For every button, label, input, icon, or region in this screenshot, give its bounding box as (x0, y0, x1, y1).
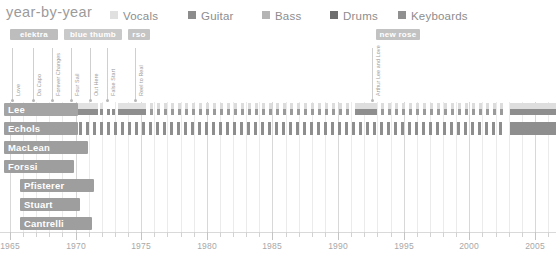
event-tick (90, 48, 91, 102)
activity-segment (478, 122, 481, 135)
axis-tick (522, 232, 523, 237)
activity-segment (220, 109, 223, 115)
activity-segment (437, 109, 440, 115)
activity-segment (325, 109, 328, 115)
activity-segment (422, 122, 425, 135)
event-label: Four Sail (74, 74, 80, 96)
activity-segment (444, 109, 447, 115)
row-label-echols[interactable]: Echols (4, 122, 78, 135)
legend-item-bass[interactable]: Bass (262, 6, 301, 20)
axis-label: 1990 (328, 241, 348, 251)
activity-segment (331, 122, 334, 135)
label-chip-elektra[interactable]: elektra (10, 29, 58, 40)
axis-tick (49, 232, 50, 237)
activity-segment (213, 109, 216, 115)
plot-area: LeeEcholsMacLeanForssiPfistererStuartCan… (0, 102, 556, 234)
legend-item-keyboards[interactable]: Keyboards (398, 6, 468, 20)
activity-segment (86, 122, 89, 135)
activity-segment (304, 109, 307, 115)
activity-segment (171, 109, 174, 115)
activity-segment (199, 109, 202, 115)
axis-tick (430, 232, 431, 237)
label-chip-rso[interactable]: rso (128, 29, 150, 40)
activity-segment (416, 109, 419, 115)
event-label: Da Capo (36, 74, 42, 96)
activity-segment (254, 122, 257, 135)
axis-tick (364, 232, 365, 237)
activity-segment (310, 122, 313, 135)
event-label: False Start (110, 69, 116, 96)
activity-segment (457, 122, 460, 135)
row-label-stuart[interactable]: Stuart (20, 198, 80, 211)
event-label: Arthur Lee and Love (375, 45, 381, 96)
legend-label: Keyboards (411, 10, 468, 22)
row-label-cantrelli[interactable]: Cantrelli (20, 217, 92, 230)
timeline-row: Echols (0, 121, 556, 140)
activity-segment (395, 109, 398, 115)
event-tick (71, 48, 72, 102)
legend-label: Vocals (123, 10, 158, 22)
activity-segment (276, 109, 279, 115)
activity-segment (296, 122, 299, 135)
axis-tick (509, 232, 510, 237)
axis-tick (299, 232, 300, 237)
axis-tick (286, 232, 287, 237)
row-label-forssi[interactable]: Forssi (4, 160, 74, 173)
activity-segment (324, 122, 327, 135)
activity-segment (178, 109, 181, 115)
axis-tick (246, 232, 247, 237)
row-label-lee[interactable]: Lee (4, 103, 78, 116)
activity-segment (472, 109, 475, 115)
activity-segment (493, 109, 496, 115)
legend-item-vocals[interactable]: Vocals (110, 6, 158, 20)
timeline-row: Pfisterer (0, 178, 556, 197)
axis-label: 2000 (459, 241, 479, 251)
label-chip-new-rose[interactable]: new rose (376, 29, 420, 40)
event-tick (12, 48, 13, 102)
activity-segment (135, 122, 138, 135)
activity-segment (205, 122, 208, 135)
activity-segment (121, 122, 124, 135)
legend-swatch-icon (188, 11, 196, 19)
axis-tick (469, 232, 470, 240)
axis-tick (272, 232, 273, 240)
axis-tick (338, 232, 339, 240)
activity-segment (409, 109, 412, 115)
activity-segment (283, 109, 286, 115)
activity-segment (93, 122, 96, 135)
activity-segment (177, 122, 180, 135)
axis-label: 1975 (131, 241, 151, 251)
activity-segment (241, 109, 244, 115)
timeline-row: Forssi (0, 159, 556, 178)
activity-segment (430, 109, 433, 115)
axis-label: 1980 (197, 241, 217, 251)
activity-segment (451, 109, 454, 115)
activity-segment (510, 122, 556, 135)
label-chip-blue-thumb[interactable]: blue thumb (64, 29, 122, 40)
activity-segment (118, 109, 146, 115)
activity-segment (226, 122, 229, 135)
event-tick (107, 48, 108, 102)
activity-segment (359, 122, 362, 135)
legend-item-drums[interactable]: Drums (330, 6, 378, 20)
x-axis: 196519701975198019851990199520002005 (0, 232, 556, 255)
row-label-pfisterer[interactable]: Pfisterer (20, 179, 94, 192)
activity-segment (79, 122, 82, 135)
activity-segment (233, 122, 236, 135)
axis-label: 1995 (394, 241, 414, 251)
activity-segment (381, 109, 384, 115)
activity-segment (163, 122, 166, 135)
activity-segment (355, 109, 377, 115)
activity-segment (352, 122, 355, 135)
legend-item-guitar[interactable]: Guitar (188, 6, 234, 20)
row-label-maclean[interactable]: MacLean (4, 141, 88, 154)
activity-segment (219, 122, 222, 135)
activity-segment (479, 109, 482, 115)
axis-tick (154, 232, 155, 237)
activity-segment (157, 109, 160, 115)
legend-label: Drums (343, 10, 378, 22)
activity-segment (282, 122, 285, 135)
activity-segment (394, 122, 397, 135)
activity-segment (373, 122, 376, 135)
event-label: Love (15, 84, 21, 96)
